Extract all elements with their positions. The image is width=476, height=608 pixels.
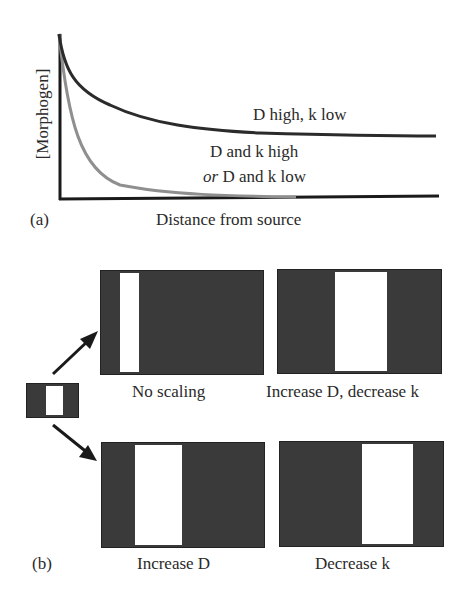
panel-a-label: (a)	[30, 210, 49, 230]
outcome-label-increase-d: Increase D	[137, 554, 210, 574]
x-axis-label: Distance from source	[156, 210, 301, 230]
outcome-increase-d	[101, 442, 265, 548]
outcome-decrease-k	[279, 441, 444, 547]
y-axis-label: [Morphogen]	[33, 59, 53, 169]
stripe	[135, 445, 182, 545]
curve-label-d-high-k-low: D high, k low	[253, 105, 347, 125]
stripe	[120, 273, 139, 372]
outcome-label-increase-d-decrease-k: Increase D, decrease k	[266, 382, 419, 402]
stripe	[335, 272, 387, 371]
curve-label-matched-line2: or D and k low	[203, 167, 306, 187]
arrow-down	[53, 425, 89, 454]
panel-b-label: (b)	[32, 554, 52, 574]
curve-label-matched-line1: D and k high	[210, 142, 298, 162]
arrow-up	[53, 339, 90, 374]
initial-stripe	[46, 386, 63, 415]
initial-pattern	[26, 383, 79, 418]
curve-label-or: or	[203, 167, 218, 186]
curve-d-high-k-low	[59, 34, 436, 136]
outcome-no-scaling	[100, 270, 264, 375]
outcome-increase-d-decrease-k	[277, 269, 442, 374]
outcome-label-decrease-k: Decrease k	[315, 554, 390, 574]
outcome-label-no-scaling: No scaling	[132, 382, 205, 402]
stripe	[362, 444, 413, 544]
curve-label-matched-rest: D and k low	[218, 167, 306, 186]
